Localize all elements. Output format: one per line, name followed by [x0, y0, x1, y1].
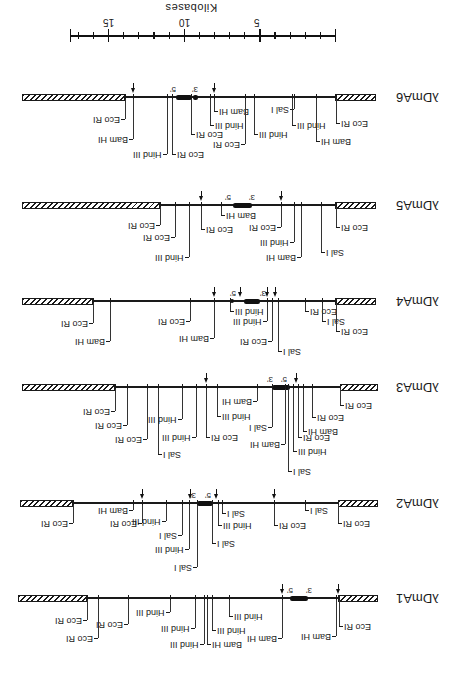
down-arrow-icon — [204, 378, 208, 383]
site-leader — [281, 207, 282, 227]
site-hook — [336, 227, 340, 228]
site-hook — [293, 451, 297, 452]
site-leader — [338, 505, 339, 523]
site-hook — [290, 242, 294, 243]
site-hook — [212, 543, 216, 544]
five-prime-label: 5' — [230, 289, 236, 297]
site-hook — [212, 630, 216, 631]
down-arrow-icon — [212, 292, 216, 297]
site-hook — [178, 419, 182, 420]
site-hook — [210, 338, 214, 339]
site-leader — [298, 389, 299, 437]
vector-arm-left — [22, 384, 115, 391]
site-leader — [303, 389, 304, 431]
site-label-eco-ri: Eco RI — [279, 521, 306, 530]
site-hook — [192, 437, 196, 438]
site-hook — [210, 125, 214, 126]
site-leader — [170, 600, 171, 612]
site-hook — [222, 513, 226, 514]
scale-tick-end — [70, 29, 71, 42]
site-leader — [336, 303, 337, 331]
site-leader — [214, 99, 215, 111]
site-label-hind-iii: Hind III — [223, 521, 252, 530]
site-leader — [189, 207, 190, 257]
scale-tick — [138, 32, 139, 39]
site-leader — [267, 303, 268, 321]
site-leader — [336, 600, 337, 636]
down-arrow-icon — [214, 494, 218, 499]
site-leader — [128, 600, 129, 624]
gene-coding-region-2 — [193, 95, 198, 100]
site-label-hind-iii: Hind III — [148, 415, 177, 424]
site-leader — [207, 600, 208, 644]
site-label-hind-iii: Hind III — [162, 433, 191, 442]
vector-arm-right — [338, 500, 378, 507]
site-leader — [301, 207, 302, 257]
scale-tick — [169, 32, 170, 39]
site-hook — [316, 141, 320, 142]
site-hook — [229, 616, 233, 617]
site-label-eco-ri: Eco RI — [83, 407, 110, 416]
site-hook — [201, 229, 205, 230]
construct-name: λDmA2 — [396, 497, 439, 510]
vector-arm-left — [20, 500, 73, 507]
site-hook — [254, 134, 258, 135]
scale-tick — [274, 32, 275, 39]
site-hook — [221, 215, 225, 216]
site-leader — [182, 389, 183, 419]
site-hook — [336, 331, 340, 332]
site-label-hind-iii: Hind III — [133, 150, 162, 159]
site-hook — [278, 638, 282, 639]
site-hook — [263, 321, 267, 322]
site-label-eco-ri: Eco RI — [345, 401, 372, 410]
site-hook — [322, 321, 326, 322]
site-hook — [207, 644, 211, 645]
site-label-eco-ri: Eco RI — [158, 317, 185, 326]
site-hook — [241, 144, 245, 145]
site-label-sal-i: Sal I — [159, 531, 177, 540]
site-leader — [305, 303, 306, 311]
insert-line — [125, 96, 335, 98]
site-label-hind-iii: Hind III — [235, 307, 264, 316]
site-hook — [303, 431, 307, 432]
site-label-eco-ri: Eco RI — [115, 435, 142, 444]
five-prime-label: 5' — [225, 193, 231, 201]
site-label-eco-ri: Eco RI — [310, 307, 337, 316]
site-leader — [197, 505, 198, 567]
site-label-eco-ri: Eco RI — [206, 225, 233, 234]
site-hook — [332, 636, 336, 637]
site-label-bam-hi: Bam HI — [266, 253, 296, 262]
site-hook — [338, 523, 342, 524]
three-prime-label: 3' — [249, 193, 255, 201]
site-label-eco-ri: Eco RI — [196, 130, 223, 139]
site-hook — [185, 257, 189, 258]
down-arrow-icon — [212, 88, 216, 93]
scale-tick — [305, 32, 306, 39]
site-label-bam-hi: Bam HI — [98, 506, 128, 515]
vector-arm-left — [22, 298, 93, 305]
five-prime-label: 5' — [281, 375, 287, 383]
scale-tick-label: 10 — [179, 18, 190, 27]
site-hook — [94, 638, 98, 639]
site-hook — [214, 111, 218, 112]
site-leader — [292, 99, 293, 125]
site-leader — [285, 389, 286, 444]
vector-arm-left — [22, 202, 160, 209]
down-arrow-icon — [336, 589, 340, 594]
gene-coding-region — [176, 95, 192, 100]
site-hook — [277, 227, 281, 228]
site-label-sal-i: Sal I — [326, 248, 344, 257]
site-label-eco-ri: Eco RI — [143, 233, 170, 242]
site-hook — [163, 154, 167, 155]
site-label-eco-ri: Eco RI — [344, 622, 371, 631]
scale-tick — [244, 32, 245, 39]
vector-arm-right — [335, 202, 376, 209]
scale-tick — [123, 32, 124, 39]
site-label-bam-hi: Bam HI — [250, 440, 280, 449]
site-label-hind-iii: Hind III — [155, 253, 184, 262]
site-leader — [218, 505, 219, 525]
site-leader — [212, 505, 213, 543]
site-label-hind-iii: Hind III — [161, 624, 190, 633]
site-leader — [175, 207, 176, 237]
gene-coding-region — [233, 203, 252, 208]
